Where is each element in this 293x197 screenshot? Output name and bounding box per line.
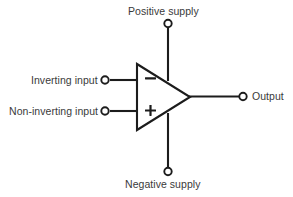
- inverting-input-label: Inverting input: [31, 75, 98, 86]
- amplifier-body-triangle: [137, 64, 190, 130]
- output-terminal[interactable]: [239, 93, 246, 100]
- output-label: Output: [252, 91, 284, 102]
- opamp-schematic-svg: [0, 0, 293, 197]
- negative-supply-terminal[interactable]: [164, 168, 171, 175]
- positive-supply-terminal[interactable]: [164, 20, 171, 27]
- negative-supply-label: Negative supply: [125, 179, 200, 190]
- non-inverting-input-terminal[interactable]: [101, 107, 108, 114]
- non-inverting-input-label: Non-inverting input: [9, 106, 98, 117]
- positive-supply-label: Positive supply: [128, 6, 199, 17]
- inverting-input-terminal[interactable]: [101, 76, 108, 83]
- opamp-diagram: Inverting input Non-inverting input Posi…: [0, 0, 293, 197]
- inverting-minus-sign: [145, 77, 156, 79]
